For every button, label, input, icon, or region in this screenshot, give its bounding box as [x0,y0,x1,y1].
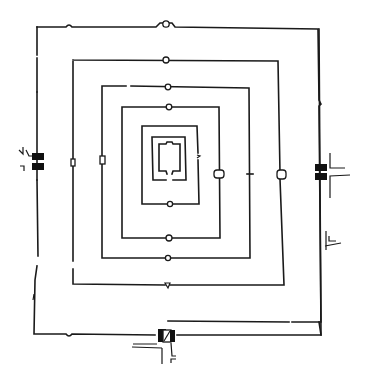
inner-sanctum [152,137,186,180]
wall-2 [73,60,284,285]
outer-wall-east [319,29,321,335]
temple-plan-diagram [0,0,367,380]
wall-3 [102,86,250,258]
east-side-gate [325,231,341,250]
west-axis-markers [71,156,105,166]
north-axis-markers [163,21,172,110]
core [159,142,180,174]
west-gate [19,92,44,180]
south-axis-markers [165,201,173,288]
